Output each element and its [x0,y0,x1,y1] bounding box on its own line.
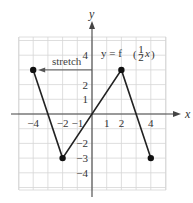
data-point [148,155,154,161]
x-axis-label: x [184,107,191,121]
function-graph: xy −4−2−1124421−2−3−4 stretchy = f(12x) [0,0,193,203]
y-tick-label: 4 [83,49,89,61]
arrowhead-icon [38,67,45,72]
x-tick-label: 1 [104,117,110,129]
paren-open: ( [133,48,137,61]
data-point [59,155,65,161]
axes: xy [11,7,191,197]
y-tick-label: 1 [83,93,89,105]
y-axis-label: y [88,7,95,21]
x-tick-label: 4 [148,117,154,129]
stretch-label: stretch [52,55,82,67]
x-tick-label: −1 [71,117,83,129]
y-tick-label: 2 [83,79,89,91]
paren-close: ) [151,48,155,61]
fraction-denominator: 2 [138,51,144,63]
fn-variable: x [144,47,150,59]
y-tick-label: −3 [76,152,88,164]
x-tick-label: −4 [27,117,39,129]
annotations: stretchy = f(12x) [38,43,155,72]
x-tick-label: −2 [57,117,69,129]
x-axis-arrow-icon [173,111,181,117]
y-axis-arrow-icon [89,21,95,29]
y-tick-label: −4 [76,167,88,179]
y-tick-label: −2 [76,137,88,149]
x-tick-label: 2 [119,117,125,129]
data-point [118,67,124,73]
data-point [30,67,36,73]
function-label: y = f [101,47,122,59]
